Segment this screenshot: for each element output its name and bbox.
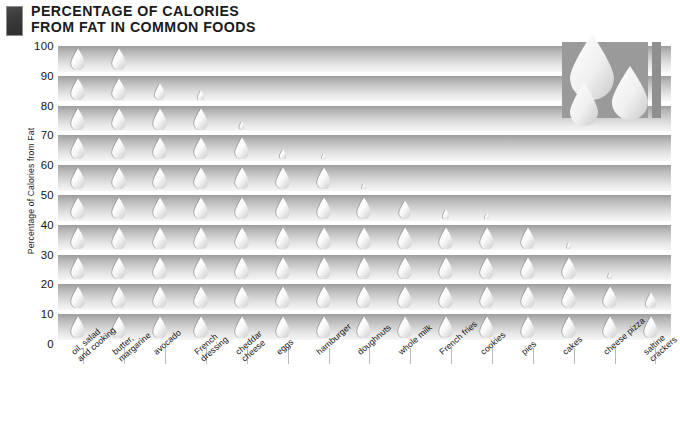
droplet-icon [239,121,245,129]
chart-cell [303,195,344,221]
chart-cell [140,225,181,251]
droplet-icon [234,316,249,338]
chart-cell [221,225,262,251]
droplet-icon [520,286,535,308]
chart-cell [140,135,181,161]
droplet-icon [194,257,209,279]
chart-cell [181,255,222,281]
chart-cell [58,135,99,161]
chart-cell [58,284,99,310]
droplet-icon [357,286,372,308]
droplet-icon [71,197,86,219]
droplet-icon [316,197,331,219]
droplet-icon [153,286,168,308]
chart-cell [344,165,385,191]
chart-cell [221,135,262,161]
chart-cell [548,255,589,281]
chart-cell [467,195,508,221]
chart-cell [508,255,549,281]
chart-cell [58,225,99,251]
droplet-icon [399,200,412,219]
droplet-icon [439,257,454,279]
droplet-icon [153,257,168,279]
droplet-icon [275,197,290,219]
chart-cell [630,76,671,102]
chart-cell [262,165,303,191]
droplet-icon [112,286,127,308]
chart-cell [221,46,262,72]
chart-cell [426,106,467,132]
chart-cell [467,76,508,102]
chart-cell [385,165,426,191]
chart-cell [385,106,426,132]
droplet-icon [275,167,290,189]
chart-cell [303,106,344,132]
chart-cell [140,255,181,281]
page-title: PERCENTAGE OF CALORIESFROM FAT IN COMMON… [31,4,256,35]
chart-cell [508,284,549,310]
droplet-icon [275,257,290,279]
chart-cell [262,46,303,72]
droplet-icon [234,137,249,159]
chart-cell [99,46,140,72]
chart-cell [181,106,222,132]
chart-cell [221,76,262,102]
droplet-icon [321,153,326,160]
chart-cell [58,46,99,72]
droplet-icon [316,257,331,279]
chart-cell [630,255,671,281]
chart-cell [221,255,262,281]
chart-cell [262,76,303,102]
chart-cell [181,165,222,191]
chart-cell [548,225,589,251]
chart-cell [344,284,385,310]
droplet-icon [112,137,127,159]
chart-cell [99,135,140,161]
chart-cell [58,165,99,191]
droplet-icon [275,316,290,338]
chart-cell [99,106,140,132]
y-tick-label: 90 [18,70,54,82]
droplet-icon [194,197,209,219]
chart-cell [548,76,589,102]
droplet-icon [561,316,576,338]
chart-cell [589,165,630,191]
chart-band [58,255,671,281]
chart-cell [589,135,630,161]
chart-cell [385,76,426,102]
droplet-icon [71,257,86,279]
droplet-icon [357,257,372,279]
droplet-icon [112,108,127,130]
y-axis-ticks: 1009080706050403020100 [18,42,54,350]
droplet-icon [153,108,168,130]
chart-cell [344,76,385,102]
chart-cell [467,255,508,281]
chart-cell [589,255,630,281]
chart-cell [303,225,344,251]
chart-cell [630,165,671,191]
droplet-icon [561,257,576,279]
y-tick-label: 0 [18,338,54,350]
chart-cell [548,314,589,340]
chart-cell [344,46,385,72]
chart-cell [140,76,181,102]
droplet-icon [362,183,367,190]
chart-band [58,46,671,72]
chart-band [58,76,671,102]
chart-cell [140,284,181,310]
chart-cell [589,76,630,102]
y-tick-label: 60 [18,159,54,171]
droplet-icon [71,286,86,308]
droplet-icon [279,149,286,159]
chart-cell [467,135,508,161]
chart-cell [344,106,385,132]
droplet-icon [520,227,535,249]
chart-cell [99,225,140,251]
chart-cell [385,225,426,251]
chart-cell [344,225,385,251]
chart-cell [58,106,99,132]
droplet-icon [602,316,617,338]
droplet-icon [194,316,209,338]
droplet-icon [398,316,413,338]
droplet-icon [153,137,168,159]
